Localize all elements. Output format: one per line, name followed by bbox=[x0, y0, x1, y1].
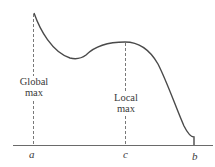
function-curve bbox=[34, 13, 194, 145]
tick-label-b: b bbox=[192, 151, 198, 162]
tick-label-a: a bbox=[29, 149, 35, 160]
local-max-label-line2: max bbox=[108, 103, 144, 114]
tick-label-c: c bbox=[123, 149, 128, 160]
global-max-label-line2: max bbox=[16, 87, 52, 98]
global-max-label: Global max bbox=[16, 76, 52, 98]
extrema-diagram: Global max Local max a c b bbox=[0, 0, 215, 167]
local-max-label-line1: Local bbox=[108, 92, 144, 103]
global-max-label-line1: Global bbox=[16, 76, 52, 87]
local-max-label: Local max bbox=[108, 92, 144, 114]
